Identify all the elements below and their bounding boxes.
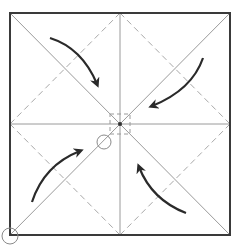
center-point xyxy=(118,122,122,126)
arrow-bottom-left-icon xyxy=(32,151,80,202)
origami-diagram xyxy=(0,0,240,251)
circle-marker-inner xyxy=(97,135,111,149)
arrow-top-right-icon xyxy=(152,58,203,106)
arrow-bottom-right-icon xyxy=(139,167,186,213)
diagram-canvas xyxy=(0,0,240,251)
